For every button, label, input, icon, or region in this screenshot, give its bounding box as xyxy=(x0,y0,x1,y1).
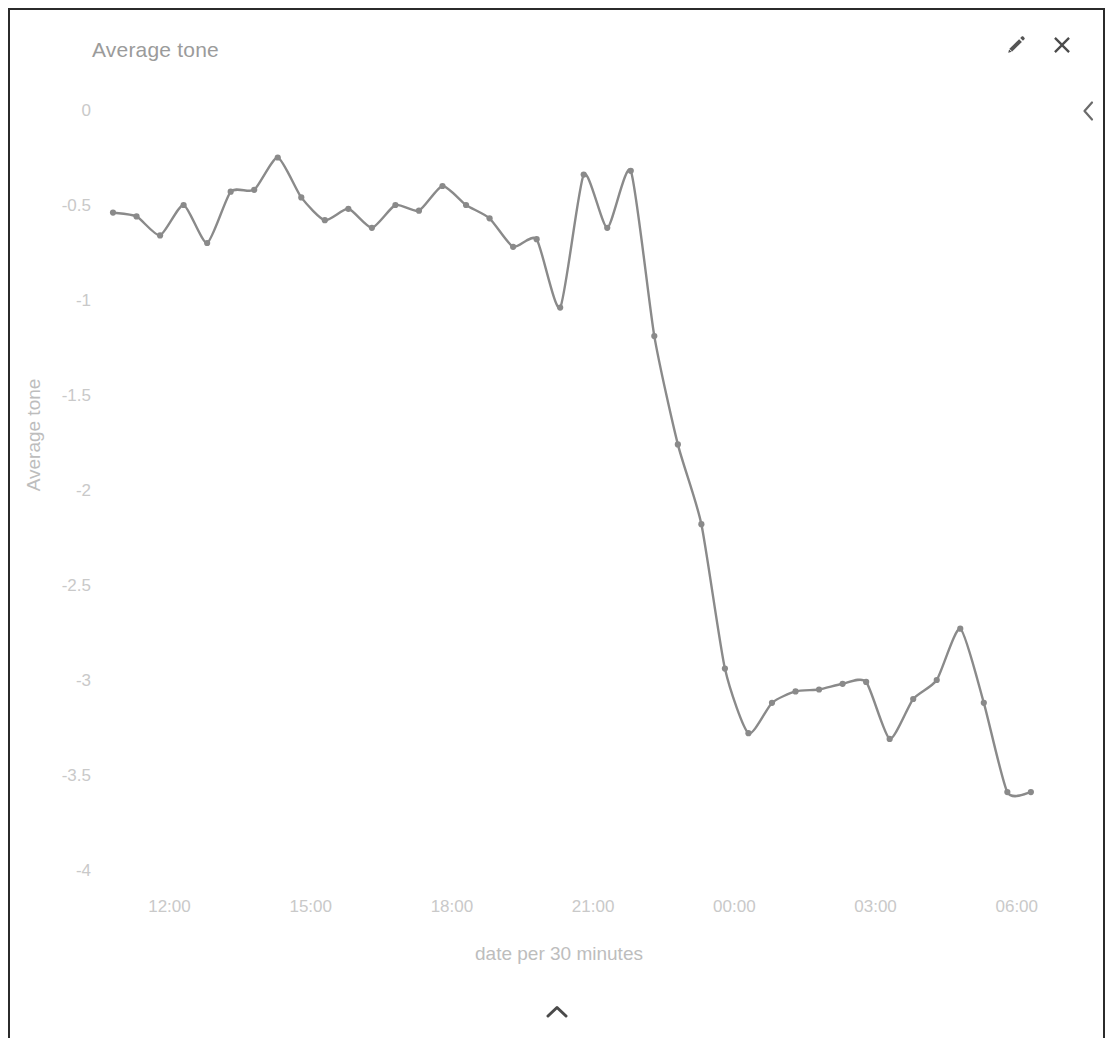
x-axis-tick-label: 00:00 xyxy=(713,897,756,916)
data-point[interactable]: 01:48 : -3.05 xyxy=(816,686,822,692)
x-axis-tick-label: 21:00 xyxy=(572,897,615,916)
data-point[interactable]: 12:48 : -0.7 xyxy=(204,240,210,246)
series-line-average-tone xyxy=(113,157,1031,796)
panel-content: Average tone 0-0.5-1-1.5-2-2.5 xyxy=(0,0,1113,1044)
y-axis-tick-label: -1 xyxy=(76,291,91,310)
data-point[interactable]: 23:18 : -2.18 xyxy=(698,521,704,527)
x-axis-tick-label: 06:00 xyxy=(995,897,1038,916)
data-point[interactable]: 19:48 : -0.68 xyxy=(534,236,540,242)
data-point[interactable]: 00:48 : -3.12 xyxy=(769,700,775,706)
data-point[interactable]: 22:48 : -1.76 xyxy=(675,441,681,447)
data-point[interactable]: 05:48 : -3.59 xyxy=(1004,789,1010,795)
data-point[interactable]: 18:48 : -0.57 xyxy=(486,215,492,221)
y-axis-tick-label: -2 xyxy=(76,481,91,500)
data-point[interactable]: 03:18 : -3.31 xyxy=(887,736,893,742)
data-point[interactable]: 17:48 : -0.4 xyxy=(439,183,445,189)
data-point[interactable]: 23:48 : -2.94 xyxy=(722,666,728,672)
y-axis-tick-label: -3 xyxy=(76,671,91,690)
chart-plot-area: 0-0.5-1-1.5-2-2.5-3-3.5-412:0015:0018:00… xyxy=(0,0,1113,1000)
data-point[interactable]: 02:48 : -3.01 xyxy=(863,679,869,685)
x-axis-tick-label: 18:00 xyxy=(431,897,474,916)
data-point[interactable]: 13:18 : -0.43 xyxy=(228,189,234,195)
data-point[interactable]: 11:48 : -0.66 xyxy=(157,232,163,238)
data-point[interactable]: 14:48 : -0.46 xyxy=(298,194,304,200)
data-point[interactable]: 11:18 : -0.56 xyxy=(133,213,139,219)
x-axis-tick-label: 12:00 xyxy=(148,897,191,916)
data-point[interactable]: 17:18 : -0.53 xyxy=(416,208,422,214)
y-axis-tick-label: -4 xyxy=(76,861,91,880)
data-point[interactable]: 15:48 : -0.52 xyxy=(345,206,351,212)
data-point[interactable]: 19:18 : -0.72 xyxy=(510,244,516,250)
data-point[interactable]: 10:48 : -0.54 xyxy=(110,210,116,216)
chevron-up-icon[interactable] xyxy=(0,1002,1113,1022)
data-point[interactable]: 21:48 : -0.32 xyxy=(628,168,634,174)
y-axis-tick-label: -2.5 xyxy=(62,576,91,595)
data-point[interactable]: 12:18 : -0.5 xyxy=(181,202,187,208)
data-point[interactable]: 05:18 : -3.12 xyxy=(981,700,987,706)
data-point[interactable]: 15:18 : -0.58 xyxy=(322,217,328,223)
data-point[interactable]: 16:18 : -0.62 xyxy=(369,225,375,231)
data-point[interactable]: 04:18 : -3 xyxy=(934,677,940,683)
chart-panel: Average tone 0-0.5-1-1.5-2-2.5 xyxy=(0,0,1113,1044)
data-point[interactable]: 01:18 : -3.06 xyxy=(792,688,798,694)
y-axis-tick-label: -0.5 xyxy=(62,196,91,215)
data-point[interactable]: 04:48 : -2.73 xyxy=(957,626,963,632)
data-point[interactable]: 03:48 : -3.1 xyxy=(910,696,916,702)
data-point[interactable]: 20:48 : -0.34 xyxy=(581,172,587,178)
data-point[interactable]: 16:48 : -0.5 xyxy=(392,202,398,208)
data-point[interactable]: 13:48 : -0.42 xyxy=(251,187,257,193)
data-point[interactable]: 00:18 : -3.28 xyxy=(745,730,751,736)
data-point[interactable]: 14:18 : -0.25 xyxy=(275,154,281,160)
data-point[interactable]: 22:18 : -1.19 xyxy=(651,333,657,339)
data-point[interactable]: 06:18 : -3.59 xyxy=(1028,789,1034,795)
y-axis-tick-label: 0 xyxy=(82,101,91,120)
data-point[interactable]: 02:18 : -3.02 xyxy=(840,681,846,687)
x-axis-tick-label: 15:00 xyxy=(289,897,332,916)
data-point[interactable]: 18:18 : -0.5 xyxy=(463,202,469,208)
x-axis-title: date per 30 minutes xyxy=(475,943,643,964)
y-axis-tick-label: -3.5 xyxy=(62,766,91,785)
y-axis-title: Average tone xyxy=(23,379,44,492)
data-point[interactable]: 20:18 : -1.04 xyxy=(557,305,563,311)
data-point[interactable]: 21:18 : -0.62 xyxy=(604,225,610,231)
line-chart: 0-0.5-1-1.5-2-2.5-3-3.5-412:0015:0018:00… xyxy=(0,0,1113,1000)
y-axis-tick-label: -1.5 xyxy=(62,386,91,405)
x-axis-tick-label: 03:00 xyxy=(854,897,897,916)
